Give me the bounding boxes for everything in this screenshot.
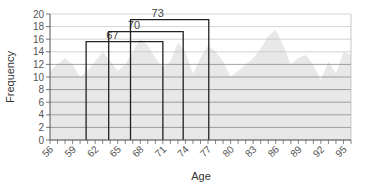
bracket-label: 70 (128, 19, 140, 31)
y-tick-label: 14 (33, 46, 45, 57)
x-tick-label: 83 (243, 143, 259, 159)
x-tick-label: 65 (107, 143, 123, 159)
x-axis-title: Age (191, 170, 211, 182)
bracket-label: 73 (152, 7, 164, 19)
y-axis-title: Frequency (4, 51, 16, 103)
x-tick-label: 86 (266, 143, 282, 159)
y-tick-label: 20 (33, 9, 45, 20)
x-tick-label: 89 (288, 143, 304, 159)
x-tick-label: 68 (130, 143, 146, 159)
y-tick-label: 8 (38, 84, 44, 95)
x-tick-label: 95 (333, 143, 349, 159)
y-tick-label: 12 (33, 59, 45, 70)
x-tick-label: 59 (62, 143, 78, 159)
x-tick-label: 92 (311, 143, 327, 159)
x-tick-label: 71 (153, 143, 169, 159)
x-tick-label: 62 (85, 143, 101, 159)
x-tick-label: 77 (198, 143, 214, 159)
x-tick-label: 56 (40, 143, 56, 159)
frequency-area (50, 30, 351, 140)
area-fill (50, 30, 351, 140)
y-tick-label: 0 (38, 135, 44, 146)
y-tick-label: 18 (33, 21, 45, 32)
x-tick-label: 74 (175, 143, 191, 159)
y-tick-label: 10 (33, 72, 45, 83)
y-tick-label: 6 (38, 97, 44, 108)
y-tick-label: 4 (38, 109, 44, 120)
area-chart: 677073 024681012141618205659626568717477… (0, 0, 370, 185)
y-tick-label: 2 (38, 122, 44, 133)
x-tick-label: 80 (220, 143, 236, 159)
y-tick-label: 16 (33, 34, 45, 45)
